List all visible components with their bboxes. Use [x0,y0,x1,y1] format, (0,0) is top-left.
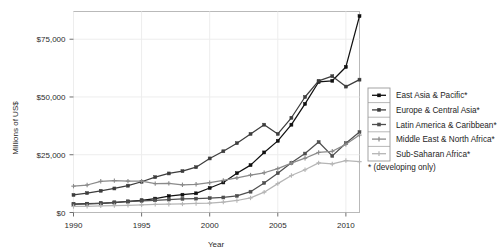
data-point [358,15,361,18]
data-point [331,79,334,82]
data-point [222,150,225,153]
data-point [126,184,129,187]
x-tick-label-1: 1995 [133,221,151,230]
legend-swatch-marker-1 [377,108,381,112]
data-point [249,164,252,167]
data-point [235,172,238,175]
y-tick-label-3: $75,000 [37,35,66,44]
data-point [126,200,129,203]
legend-label-4: Sub-Saharan Africa* [396,150,471,159]
legend-label-0: East Asia & Pacific* [396,91,468,100]
data-point [222,196,225,199]
data-point [167,198,170,201]
legend-footnote: * (developing only) [368,163,436,172]
legend-swatch-marker-0 [377,94,381,98]
data-point [249,132,252,135]
x-tick-label-2: 2000 [201,221,219,230]
data-point [195,192,198,195]
data-point [304,95,307,98]
data-point [167,195,170,198]
y-tick-label-2: $50,000 [37,93,66,102]
data-point [344,85,347,88]
data-point [304,102,307,105]
legend-label-3: Middle East & North Africa* [396,135,496,144]
data-point [154,199,157,202]
data-point [358,78,361,81]
chart-container: $0$25,000$50,000$75,000 1990199520002005… [0,0,499,252]
data-point [317,79,320,82]
data-point [263,151,266,154]
data-point [263,181,266,184]
data-point [263,123,266,126]
data-point [331,154,334,157]
x-tick-label-0: 1990 [65,221,83,230]
data-point [208,157,211,160]
data-point [140,199,143,202]
plot-frame [74,12,360,213]
data-point [249,190,252,193]
data-point [317,141,320,144]
data-point [181,193,184,196]
data-point [276,139,279,142]
data-point [276,172,279,175]
plot-frame-group [74,12,360,213]
data-point [208,197,211,200]
data-point [195,166,198,169]
data-point [86,192,89,195]
data-point [276,132,279,135]
data-point [72,193,75,196]
y-axis-ticks: $0$25,000$50,000$75,000 [37,35,74,217]
data-point [99,189,102,192]
data-point [290,123,293,126]
legend-label-2: Latin America & Caribbean* [396,121,497,130]
x-axis-title: Year [208,240,225,249]
data-point [113,187,116,190]
data-point [154,176,157,179]
legend-swatch-marker-2 [377,123,381,127]
chart-legend: East Asia & Pacific*Europe & Central Asi… [368,88,497,161]
data-point [208,187,211,190]
data-point [235,194,238,197]
data-point [181,170,184,173]
y-tick-label-0: $0 [57,209,66,218]
y-tick-label-1: $25,000 [37,151,66,160]
line-chart: $0$25,000$50,000$75,000 1990199520002005… [0,0,499,252]
data-point [331,75,334,78]
x-axis-ticks: 19901995200020052010 [65,213,356,230]
data-point [235,142,238,145]
y-axis-title: Millions of US$ [11,101,20,155]
data-point [181,197,184,200]
data-point [344,65,347,68]
x-tick-label-4: 2010 [337,221,355,230]
data-point [167,172,170,175]
data-point [195,197,198,200]
legend-label-1: Europe & Central Asia* [396,106,481,115]
x-tick-label-3: 2005 [269,221,287,230]
data-point [304,152,307,155]
data-point [290,116,293,119]
